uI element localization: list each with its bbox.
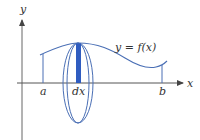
dx-label: dx [72,85,86,98]
lower-bound-label: a [40,85,47,98]
diagram-canvas: y x y = f(x) a b dx [0,0,200,140]
y-axis-label: y [19,3,27,16]
dx-strip [76,43,81,83]
disk-method-diagram: y x y = f(x) a b dx [0,0,200,140]
curve-label: y = f(x) [114,41,156,54]
upper-bound-label: b [159,85,166,98]
x-axis-label: x [187,77,194,90]
